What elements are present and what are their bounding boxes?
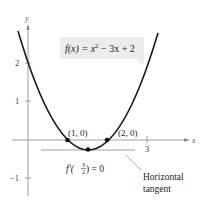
annotation-line1: Horizontal — [143, 172, 184, 182]
y-axis-label: y — [24, 14, 29, 23]
annotation-leader-line — [126, 155, 141, 170]
function-label-prefix: f(x) = x — [65, 43, 96, 55]
derivative-suffix: ) = 0 — [86, 164, 104, 175]
x-axis-arrow-icon — [184, 138, 190, 141]
y-axis-arrow-icon — [26, 24, 29, 30]
derivative-frac-den: 2 — [82, 169, 85, 175]
function-label-pointer — [136, 59, 144, 66]
x-axis-label: x — [191, 136, 196, 145]
point-label-2-0: (2, 0) — [118, 128, 138, 138]
point-2-0 — [105, 138, 110, 143]
graph-canvas: y x 2 1 −1 3 f(x) = x2 − 3x + 2 (1, 0) (… — [0, 0, 204, 203]
derivative-label: f′( — [66, 164, 75, 175]
derivative-prefix: f′( — [66, 164, 75, 175]
y-tick-label-neg1: −1 — [10, 173, 19, 183]
point-label-1-0: (1, 0) — [68, 128, 88, 138]
y-tick-label-1: 1 — [15, 96, 19, 106]
x-tick-label-3: 3 — [145, 144, 149, 154]
point-1-0 — [65, 138, 70, 143]
function-label: f(x) = x2 − 3x + 2 — [65, 42, 135, 55]
y-tick-label-2: 2 — [15, 58, 19, 68]
function-label-suffix: − 3x + 2 — [99, 43, 135, 54]
annotation-line2: tangent — [143, 184, 171, 194]
derivative-frac-num: 3 — [82, 162, 85, 168]
vertex-point — [86, 147, 91, 152]
